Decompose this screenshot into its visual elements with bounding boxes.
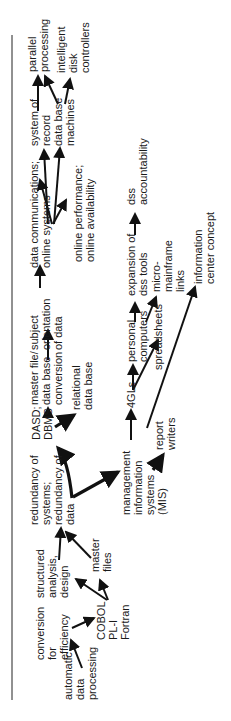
svg-text:redundancy of: redundancy of (28, 454, 40, 525)
svg-text:writers: writers (165, 417, 177, 451)
node-mfconv: master file/ data base conversion (28, 350, 64, 405)
svg-text:data: data (64, 503, 76, 525)
node-reldb: relational data base (70, 362, 94, 410)
svg-text:data base: data base (82, 362, 94, 410)
svg-text:computers: computers (137, 310, 149, 362)
svg-text:dss tools: dss tools (137, 252, 149, 296)
svg-text:for: for (46, 647, 58, 660)
node-expdss: expansion of dss tools (125, 233, 149, 296)
svg-text:mainframe: mainframe (162, 240, 174, 292)
svg-text:data base: data base (40, 357, 52, 405)
svg-text:DBMS: DBMS (42, 408, 54, 440)
node-datacomm: data communications; online systems (28, 161, 52, 268)
svg-text:online systems: online systems (40, 195, 52, 268)
node-struct: structured analysis, design (34, 549, 70, 598)
svg-text:4GLs: 4GLs (125, 381, 137, 408)
node-spread: spreadsheets (152, 303, 164, 370)
svg-text:online availability: online availability (84, 178, 96, 262)
svg-text:PL-I: PL-I (107, 620, 119, 640)
node-conv: conversion for efficiency (34, 607, 70, 660)
svg-text:processing: processing (38, 19, 50, 72)
svg-text:record: record (40, 115, 52, 146)
svg-text:redundancy of: redundancy of (52, 454, 64, 525)
svg-text:conversion: conversion (34, 607, 46, 660)
svg-text:relational: relational (70, 365, 82, 410)
node-4gl: 4GLs (125, 381, 137, 408)
svg-text:intelligent: intelligent (55, 27, 67, 73)
svg-text:subject: subject (28, 315, 40, 350)
node-master: master files (89, 538, 113, 572)
evolution-diagram: automatic data processing conversion for… (0, 0, 231, 721)
svg-text:report: report (153, 421, 165, 450)
svg-text:systems: systems (144, 474, 156, 515)
svg-text:information: information (192, 230, 204, 284)
svg-text:online performance;: online performance; (72, 165, 84, 262)
svg-text:conversion: conversion (52, 352, 64, 405)
node-redund: redundancy of systems; redundancy of dat… (28, 454, 76, 525)
node-dasd: DASD; DBMS (30, 406, 54, 440)
node-infoctr: information center concept (192, 212, 216, 284)
svg-text:links: links (174, 269, 186, 292)
svg-text:accountability: accountability (137, 138, 149, 205)
svg-text:information: information (132, 461, 144, 515)
svg-text:system of: system of (28, 98, 40, 146)
node-dss: dss accountability (125, 138, 149, 205)
svg-text:analysis,: analysis, (46, 555, 58, 598)
svg-text:center concept: center concept (204, 212, 216, 284)
svg-text:personal: personal (125, 320, 137, 362)
svg-text:data communications;: data communications; (28, 161, 40, 268)
node-onlineperf: online performance; online availability (72, 165, 96, 262)
svg-text:micro-: micro- (150, 261, 162, 292)
svg-text:processing: processing (86, 647, 98, 700)
svg-text:data: data (74, 678, 86, 700)
node-pc: personal computers (125, 310, 149, 362)
svg-text:master: master (89, 538, 101, 572)
svg-text:expansion of: expansion of (125, 233, 137, 296)
svg-text:COBOL: COBOL (95, 601, 107, 640)
svg-text:efficiency: efficiency (58, 614, 70, 660)
svg-text:DASD;: DASD; (30, 406, 42, 440)
node-idc: intelligent disk controllers (55, 22, 91, 73)
svg-text:files: files (101, 552, 113, 572)
svg-text:management: management (120, 451, 132, 515)
node-sysrec: system of record (28, 98, 52, 146)
node-subject: subject orientation of data (28, 299, 64, 350)
svg-text:orientation: orientation (40, 299, 52, 350)
node-parallel: parallel processing (26, 19, 50, 72)
node-report: report writers (153, 417, 177, 451)
svg-text:structured: structured (34, 549, 46, 598)
node-dbm: data base machines (52, 98, 76, 146)
svg-text:data base: data base (52, 98, 64, 146)
node-micro: micro- mainframe links (150, 240, 186, 292)
svg-text:machines: machines (64, 98, 76, 146)
svg-text:spreadsheets: spreadsheets (152, 303, 164, 370)
svg-text:systems;: systems; (40, 482, 52, 525)
svg-text:design: design (58, 566, 70, 598)
svg-text:master file/: master file/ (28, 350, 40, 405)
node-cobol: COBOL PL-I Fortran (95, 601, 131, 640)
svg-text:controllers: controllers (79, 22, 91, 73)
svg-text:parallel: parallel (26, 37, 38, 72)
svg-text:disk: disk (67, 53, 79, 73)
svg-text:(MIS): (MIS) (156, 488, 168, 515)
svg-text:dss: dss (125, 187, 137, 205)
svg-text:of data: of data (52, 315, 64, 350)
svg-text:Fortran: Fortran (119, 605, 131, 640)
